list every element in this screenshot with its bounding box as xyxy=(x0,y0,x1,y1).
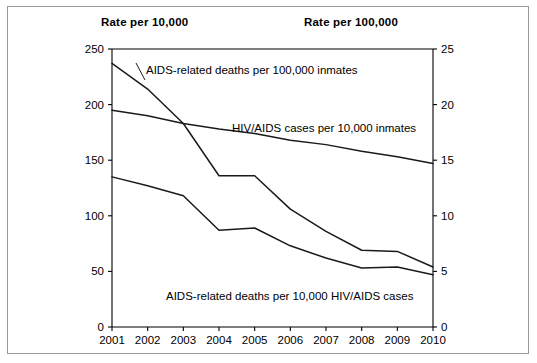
x-axis-tick-label: 2005 xyxy=(242,334,268,346)
series-labels-group: AIDS-related deaths per 100,000 inmatesH… xyxy=(136,63,416,302)
series-label-2: AIDS-related deaths per 10,000 HIV/AIDS … xyxy=(166,290,414,302)
left-axis-tick-label: 250 xyxy=(85,43,104,55)
left-axis-tick-label: 0 xyxy=(98,321,104,333)
series-label-leader-0 xyxy=(136,63,145,80)
left-axis-tick-label: 150 xyxy=(85,154,104,166)
chart-plot: 0501001502002500510152025200120022003200… xyxy=(0,0,537,363)
x-axis-tick-label: 2010 xyxy=(420,334,446,346)
x-axis-tick-label: 2002 xyxy=(135,334,161,346)
x-axis-tick-label: 2003 xyxy=(171,334,197,346)
right-axis-tick-label: 15 xyxy=(441,154,454,166)
left-axis-tick-label: 50 xyxy=(91,265,104,277)
left-axis-tick-label: 200 xyxy=(85,99,104,111)
right-axis-tick-label: 20 xyxy=(441,99,454,111)
x-axis-tick-label: 2009 xyxy=(385,334,411,346)
series-line-1 xyxy=(112,110,433,163)
chart-figure: Rate per 10,000 Rate per 100,000 0501001… xyxy=(0,0,537,363)
right-axis-tick-label: 10 xyxy=(441,210,454,222)
x-axis-tick-label: 2007 xyxy=(313,334,339,346)
right-axis-tick-label: 5 xyxy=(441,265,447,277)
x-axis-tick-label: 2008 xyxy=(349,334,375,346)
series-group xyxy=(112,63,433,274)
series-label-1: HIV/AIDS cases per 10,000 inmates xyxy=(232,122,416,134)
x-axis-tick-label: 2001 xyxy=(99,334,125,346)
series-label-0: AIDS-related deaths per 100,000 inmates xyxy=(146,64,358,76)
left-axis-tick-label: 100 xyxy=(85,210,104,222)
x-axis-tick-label: 2004 xyxy=(206,334,232,346)
x-axis-tick-label: 2006 xyxy=(278,334,304,346)
right-axis-tick-label: 25 xyxy=(441,43,454,55)
right-axis-tick-label: 0 xyxy=(441,321,447,333)
